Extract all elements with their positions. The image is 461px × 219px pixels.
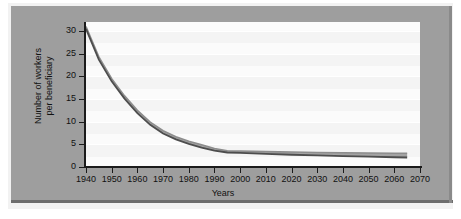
x-axis: [84, 166, 422, 168]
x-tick: [137, 168, 138, 173]
x-tick: [266, 168, 267, 173]
x-tick: [214, 168, 215, 173]
y-tick: [79, 31, 85, 32]
y-tick: [79, 144, 85, 145]
x-tick: [369, 168, 370, 173]
y-tick: [79, 122, 85, 123]
figure-mat-shadow-right: [449, 6, 452, 203]
x-tick: [394, 168, 395, 173]
x-tick: [112, 168, 113, 173]
y-axis-title-line1: Number of workers: [33, 26, 44, 146]
x-tick: [163, 168, 164, 173]
y-tick: [79, 54, 85, 55]
x-tick: [189, 168, 190, 173]
y-tick: [79, 99, 85, 100]
upper-bound-line: [86, 27, 407, 154]
y-axis: [84, 22, 86, 168]
series-line-band: [86, 22, 420, 167]
figure-container: 051015202530 194019501960197019801990200…: [0, 0, 461, 219]
band-area: [86, 27, 407, 158]
x-tick: [292, 168, 293, 173]
lower-bound-line: [86, 29, 407, 158]
figure-mat-shadow-bottom: [11, 200, 453, 203]
y-tick-label: 0: [50, 162, 76, 171]
x-tick: [240, 168, 241, 173]
x-tick: [420, 168, 421, 173]
x-tick-label: 2070: [403, 174, 437, 184]
y-tick: [79, 76, 85, 77]
y-tick: [79, 167, 85, 168]
x-axis-title: Years: [163, 188, 283, 198]
x-tick: [343, 168, 344, 173]
y-axis-title: Number of workers per beneficiary: [33, 26, 55, 146]
x-tick: [86, 168, 87, 173]
x-tick: [317, 168, 318, 173]
y-axis-title-line2: per beneficiary: [44, 26, 55, 146]
